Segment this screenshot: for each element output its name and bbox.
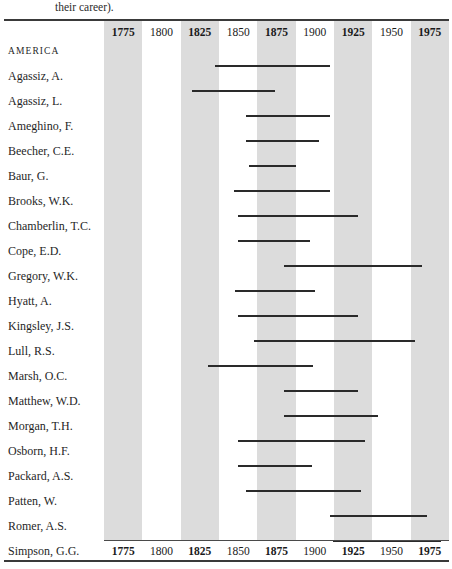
- row-label-3: Ameghino, F.: [8, 119, 73, 133]
- career-span-chart: their career). 1775180018251850187519001…: [0, 0, 452, 569]
- career-bar-14: [284, 390, 358, 392]
- career-bar-17: [238, 465, 312, 467]
- career-bar-1: [215, 65, 330, 67]
- year-tick-head-1925: 1925: [334, 22, 372, 42]
- year-band-1975: [411, 21, 449, 540]
- year-tick-head-1900: 1900: [296, 22, 334, 42]
- year-band-1775: [104, 21, 142, 540]
- plot-area: [104, 21, 449, 540]
- career-bar-18: [246, 490, 361, 492]
- row-label-5: Baur, G.: [8, 169, 49, 183]
- career-bar-13: [208, 365, 314, 367]
- figure-caption-fragment: their career).: [0, 0, 452, 16]
- section-label-america: AMERICA: [8, 44, 60, 58]
- year-tick-foot-1925: 1925: [334, 541, 372, 561]
- row-label-20: Simpson, G.G.: [8, 544, 79, 558]
- footer-rule: [104, 540, 449, 541]
- year-band-1825: [181, 21, 219, 540]
- career-bar-16: [238, 440, 365, 442]
- career-bar-8: [238, 240, 310, 242]
- career-bar-5: [249, 165, 297, 167]
- career-bar-11: [238, 315, 358, 317]
- career-bar-2: [192, 90, 275, 92]
- year-tick-head-1950: 1950: [372, 22, 410, 42]
- row-label-10: Hyatt, A.: [8, 294, 52, 308]
- career-bar-7: [238, 215, 358, 217]
- axis-header-years: 177518001825185018751900192519501975: [104, 22, 449, 42]
- career-bar-9: [284, 265, 422, 267]
- row-label-7: Chamberlin, T.C.: [8, 219, 91, 233]
- row-label-19: Romer, A.S.: [8, 519, 67, 533]
- bottom-rule: [4, 560, 449, 562]
- row-label-9: Gregory, W.K.: [8, 269, 78, 283]
- career-bar-12: [254, 340, 415, 342]
- career-bar-3: [246, 115, 330, 117]
- career-bar-10: [235, 290, 315, 292]
- year-band-1925: [334, 21, 372, 540]
- axis-footer-years: 177518001825185018751900192519501975: [104, 541, 449, 561]
- career-bar-4: [246, 140, 320, 142]
- row-label-14: Matthew, W.D.: [8, 394, 81, 408]
- row-label-12: Lull, R.S.: [8, 344, 55, 358]
- career-bar-6: [234, 190, 331, 192]
- row-label-18: Patten, W.: [8, 494, 57, 508]
- career-bar-15: [284, 415, 378, 417]
- row-label-11: Kingsley, J.S.: [8, 319, 74, 333]
- year-tick-head-1850: 1850: [219, 22, 257, 42]
- year-tick-foot-1775: 1775: [104, 541, 142, 561]
- year-tick-foot-1800: 1800: [142, 541, 180, 561]
- row-label-6: Brooks, W.K.: [8, 194, 73, 208]
- name-column: AMERICAAgassiz, A.Agassiz, L.Ameghino, F…: [0, 21, 104, 540]
- year-tick-foot-1975: 1975: [411, 541, 449, 561]
- year-tick-foot-1825: 1825: [181, 541, 219, 561]
- row-label-15: Morgan, T.H.: [8, 419, 73, 433]
- year-tick-head-1825: 1825: [181, 22, 219, 42]
- year-tick-foot-1850: 1850: [219, 541, 257, 561]
- year-tick-head-1800: 1800: [142, 22, 180, 42]
- row-label-17: Packard, A.S.: [8, 469, 73, 483]
- row-label-1: Agassiz, A.: [8, 69, 63, 83]
- row-label-16: Osborn, H.F.: [8, 444, 70, 458]
- row-label-8: Cope, E.D.: [8, 244, 61, 258]
- year-tick-foot-1900: 1900: [296, 541, 334, 561]
- year-band-1875: [257, 21, 295, 540]
- year-tick-head-1775: 1775: [104, 22, 142, 42]
- row-label-4: Beecher, C.E.: [8, 144, 74, 158]
- career-bar-19: [330, 515, 427, 517]
- year-tick-foot-1950: 1950: [372, 541, 410, 561]
- row-label-2: Agassiz, L.: [8, 94, 62, 108]
- year-tick-head-1875: 1875: [257, 22, 295, 42]
- year-tick-foot-1875: 1875: [257, 541, 295, 561]
- year-tick-head-1975: 1975: [411, 22, 449, 42]
- row-label-13: Marsh, O.C.: [8, 369, 67, 383]
